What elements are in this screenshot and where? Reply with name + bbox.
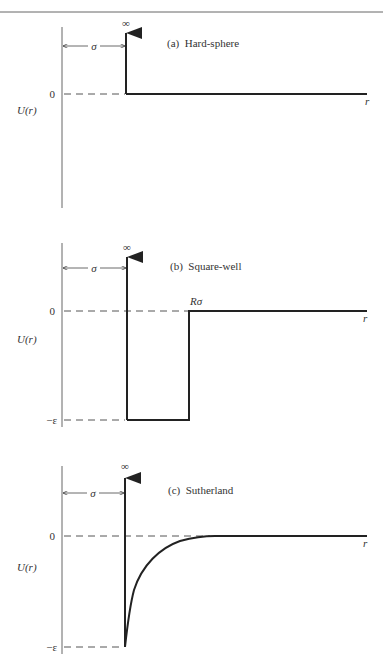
panel-sutherland: σ ∞ (c) Sutherland 0 −ε U(r) r (17, 460, 368, 654)
zero-label: 0 (50, 305, 56, 317)
zero-label: 0 (50, 530, 56, 542)
y-axis-label: U(r) (17, 104, 37, 117)
x-axis-label: r (363, 537, 368, 549)
potential-diagram: σ ∞ (a) Hard-sphere 0 U(r) r σ ∞ (b) Squ… (0, 0, 383, 669)
epsilon-label: −ε (46, 414, 57, 426)
well-edge-label: Rσ (189, 295, 203, 307)
y-axis-label: U(r) (17, 333, 37, 346)
panel-title: (b) Square-well (170, 260, 241, 273)
y-axis-label: U(r) (17, 561, 37, 574)
sigma-label: σ (90, 487, 96, 499)
potential-line (127, 311, 367, 420)
panel-title: (a) Hard-sphere (167, 37, 239, 50)
x-axis-label: r (363, 312, 368, 324)
panel-square-well: σ ∞ (b) Square-well Rσ 0 −ε U(r) r (17, 241, 368, 427)
panel-hard-sphere: σ ∞ (a) Hard-sphere 0 U(r) r (17, 17, 370, 208)
zero-label: 0 (50, 88, 56, 100)
epsilon-label: −ε (46, 641, 57, 653)
infinity-label: ∞ (121, 460, 129, 472)
sigma-label: σ (91, 262, 97, 274)
panel-title: (c) Sutherland (168, 484, 234, 497)
infinity-label: ∞ (123, 241, 131, 253)
sigma-label: σ (91, 40, 97, 52)
x-axis-label: r (365, 95, 370, 107)
potential-curve (125, 536, 367, 647)
infinity-label: ∞ (122, 17, 130, 29)
